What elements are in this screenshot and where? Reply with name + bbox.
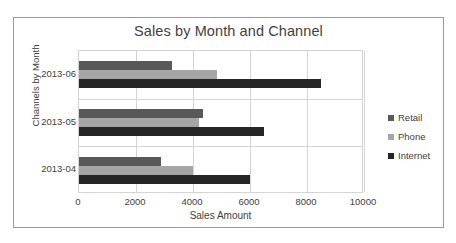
x-axis-title: Sales Amount — [78, 210, 363, 221]
bar-retail-2013-06 — [79, 61, 172, 70]
bar-phone-2013-05 — [79, 118, 199, 127]
legend-item-phone[interactable]: Phone — [388, 127, 444, 146]
chart-container: Sales by Month and Channel Channels by M… — [13, 17, 444, 228]
y-axis-category-labels: 2013-062013-052013-04 — [28, 50, 76, 193]
plot-area — [78, 50, 363, 193]
gridline — [307, 51, 308, 192]
bar-internet-2013-04 — [79, 175, 250, 184]
chart-title: Sales by Month and Channel — [14, 23, 443, 39]
y-axis-label-2013-06: 2013-06 — [32, 68, 76, 79]
legend-swatch-internet-icon — [388, 153, 394, 159]
y-axis-label-2013-04: 2013-04 — [32, 163, 76, 174]
legend-label-retail: Retail — [398, 112, 422, 123]
bar-retail-2013-04 — [79, 157, 161, 166]
y-axis-label-2013-05: 2013-05 — [32, 116, 76, 127]
legend-label-internet: Internet — [398, 150, 430, 161]
x-axis-tick-6000: 6000 — [238, 196, 259, 207]
x-axis-tick-4000: 4000 — [181, 196, 202, 207]
legend-item-internet[interactable]: Internet — [388, 146, 444, 165]
chart-legend: RetailPhoneInternet — [388, 108, 444, 165]
category-separator — [79, 99, 362, 100]
x-axis-tick-10000: 10000 — [350, 196, 376, 207]
bar-retail-2013-05 — [79, 109, 203, 118]
bar-internet-2013-05 — [79, 127, 264, 136]
x-axis-tick-8000: 8000 — [295, 196, 316, 207]
x-axis-tick-labels: 0200040006000800010000 — [78, 196, 363, 210]
gridline — [250, 51, 251, 192]
bar-phone-2013-06 — [79, 70, 217, 79]
bar-internet-2013-06 — [79, 79, 321, 88]
gridline — [364, 51, 365, 192]
x-axis-tick-2000: 2000 — [124, 196, 145, 207]
legend-swatch-phone-icon — [388, 134, 394, 140]
legend-item-retail[interactable]: Retail — [388, 108, 444, 127]
legend-swatch-retail-icon — [388, 115, 394, 121]
category-separator — [79, 146, 362, 147]
legend-label-phone: Phone — [398, 131, 425, 142]
x-axis-tick-0: 0 — [75, 196, 80, 207]
bar-phone-2013-04 — [79, 166, 193, 175]
